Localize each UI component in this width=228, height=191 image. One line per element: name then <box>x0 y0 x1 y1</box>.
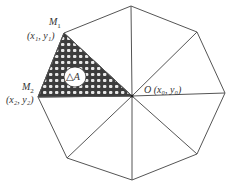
octagon-diagram <box>0 0 228 191</box>
o-label: O (x₀, y₀) <box>144 85 181 95</box>
delta-a-label: △A <box>66 72 80 82</box>
shaded-triangle <box>38 33 132 97</box>
m1-coord-label: (x₁, y₁) <box>27 31 55 41</box>
m2-coord-label: (x₂, y₂) <box>6 95 34 105</box>
m1-label: M1 <box>49 17 61 31</box>
center-point <box>131 95 134 98</box>
